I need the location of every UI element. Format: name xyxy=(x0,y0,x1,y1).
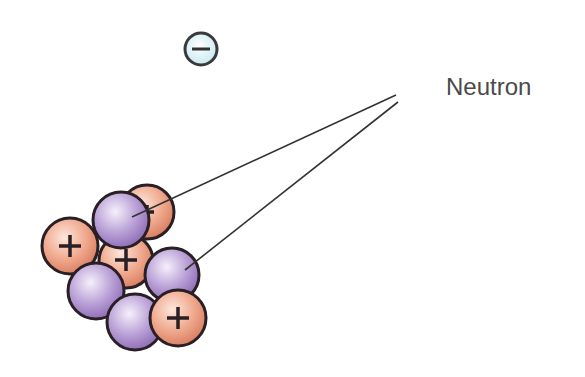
nucleus xyxy=(42,185,206,350)
neutron xyxy=(93,192,149,248)
neutron-label: Neutron xyxy=(446,73,531,101)
proton xyxy=(150,290,206,346)
electron xyxy=(185,33,217,65)
atom-diagram xyxy=(0,0,585,377)
neutron-leader-lines xyxy=(132,95,398,270)
